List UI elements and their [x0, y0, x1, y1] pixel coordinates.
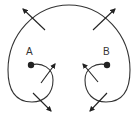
point-b-label: B	[103, 46, 110, 57]
field-loop-diagram: A B	[0, 0, 137, 115]
point-a-dot	[28, 62, 34, 68]
point-a-label: A	[26, 46, 33, 57]
point-b-dot	[104, 62, 110, 68]
